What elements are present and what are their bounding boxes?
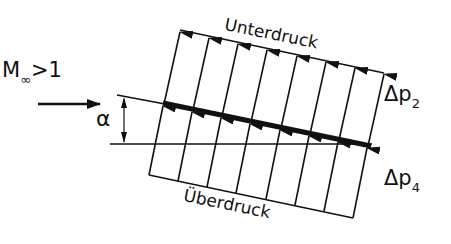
delta-p4-label: Δp4 <box>384 166 420 190</box>
diagram-canvas: M∞>1 α Unterdruck Überdruck Δp2 Δp4 <box>0 0 451 244</box>
angle-of-attack-label: α <box>96 106 111 131</box>
flat-plate <box>163 103 371 146</box>
delta-p2-label: Δp2 <box>384 82 420 106</box>
mach-number-label: M∞>1 <box>2 58 62 82</box>
